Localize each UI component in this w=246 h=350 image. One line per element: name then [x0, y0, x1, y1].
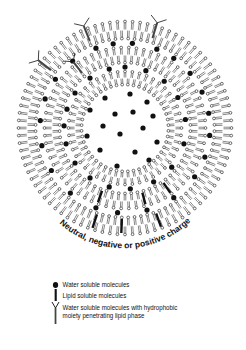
- legend-item-water-soluble: Water soluble molecules: [52, 281, 219, 292]
- bar-icon: [52, 289, 59, 301]
- legend-item-amphiphilic: Water soluble molecules with hydrophobic…: [52, 304, 219, 324]
- water-soluble-molecules: [38, 41, 213, 216]
- y-molecule-icon: [51, 301, 60, 325]
- dot-icon: [52, 281, 59, 289]
- legend-item-lipid-soluble: Lipid soluble molecules: [52, 292, 219, 304]
- liposome-diagram: Neutral, negative or positive charge: [0, 0, 246, 260]
- legend: Water soluble molecules Lipid soluble mo…: [52, 281, 242, 324]
- lipid-bilayers: [17, 20, 233, 236]
- charge-label: Neutral, negative or positive charge: [58, 215, 192, 250]
